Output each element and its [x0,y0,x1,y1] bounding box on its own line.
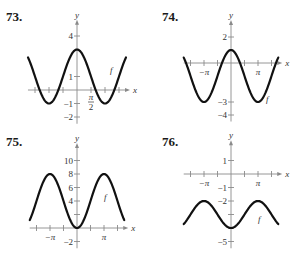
y-tick-label: −5 [217,237,227,247]
x-tick-label: −π [45,232,56,242]
y-tick-label: 4 [69,196,74,206]
curve-label-f: f [104,192,108,202]
x-arrow-icon [277,172,282,176]
x-axis-label: x [284,58,289,68]
x-tick-label: π [89,92,94,102]
y-tick-label: 10 [64,156,74,166]
y-axis-label: y [228,130,233,140]
curve-label-f: f [266,94,270,104]
y-arrow-icon [229,20,233,25]
x-arrow-icon [277,61,282,65]
plots-canvas: xy−2−114π2fxy−4−32−ππfxy−246810−ππfxy−5−… [0,0,302,268]
x-arrow-icon [125,88,130,92]
y-tick-label: −1 [63,99,73,109]
y-tick-label: −2 [63,112,73,122]
y-arrow-icon [75,143,79,148]
curve-label-f: f [258,214,262,224]
x-axis-label: x [284,169,289,179]
y-axis-label: y [74,10,79,20]
x-tick-label: π [102,232,107,242]
curve-label-f: f [110,65,114,75]
y-tick-label: −4 [217,110,227,120]
y-tick-label: 8 [69,169,74,179]
x-axis-label: x [132,85,137,95]
y-axis-label: y [228,10,233,20]
y-tick-label: 4 [69,31,74,41]
x-axis-label: x [130,223,135,233]
x-tick-label: 2 [89,102,94,112]
x-tick-label: −π [199,178,210,188]
y-axis-label: y [74,133,79,143]
y-tick-label: −3 [217,97,227,107]
y-tick-label: 6 [69,183,74,193]
y-tick-label: 2 [223,32,228,42]
y-tick-label: 1 [69,72,74,82]
y-arrow-icon [75,20,79,25]
x-tick-label: π [256,178,261,188]
x-tick-label: −π [199,67,210,77]
y-arrow-icon [229,140,233,145]
y-tick-label: 1 [223,156,228,166]
y-tick-label: −2 [217,196,227,206]
x-arrow-icon [123,226,128,230]
y-tick-label: −2 [63,237,73,247]
y-tick-label: −1 [217,183,227,193]
x-tick-label: π [256,67,261,77]
